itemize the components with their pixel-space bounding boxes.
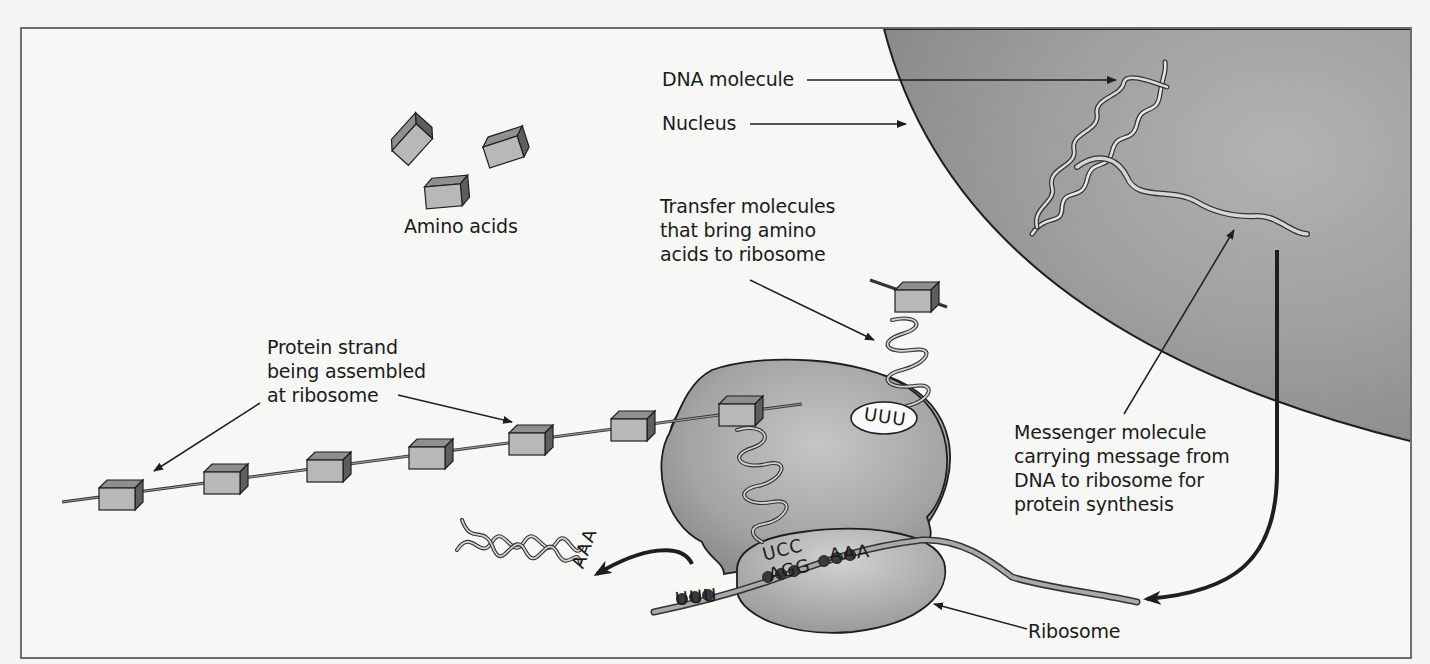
free-amino-acids <box>386 113 531 209</box>
nucleus-label: Nucleus <box>662 111 736 135</box>
ribosome-label: Ribosome <box>1028 619 1120 643</box>
transfer-molecules-label: Transfer molecules that bring amino acid… <box>660 194 835 266</box>
transfer-molecules-pointer <box>750 280 874 340</box>
trna-release-arrow <box>597 550 692 574</box>
protein-strand-label: Protein strand being assembled at riboso… <box>267 335 426 407</box>
dna-molecule-label: DNA molecule <box>662 67 794 91</box>
ribosome-pointer <box>934 604 1027 629</box>
protein-synthesis-diagram: DNA molecule Nucleus Amino acids Transfe… <box>20 27 1412 659</box>
released-transfer-rna <box>457 520 582 562</box>
exiting-codon-label: UUU <box>674 584 718 609</box>
amino-acids-label: Amino acids <box>404 214 518 238</box>
next-codon-label: AAA <box>828 540 871 565</box>
protein-strand-pointer-left <box>154 403 260 471</box>
messenger-molecule-label: Messenger molecule carrying message from… <box>1014 420 1230 516</box>
nucleus <box>884 29 1412 442</box>
cropped-caption-area <box>0 0 1430 27</box>
